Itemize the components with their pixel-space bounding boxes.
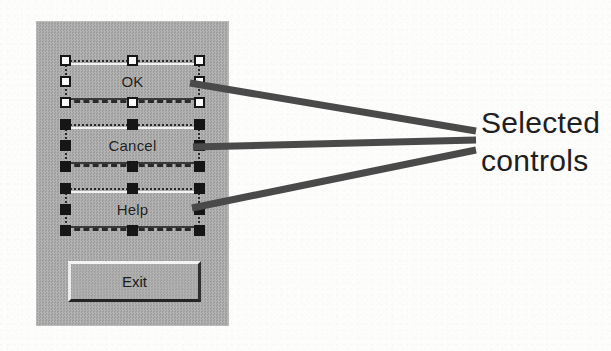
exit-button-label: Exit <box>122 273 147 290</box>
resize-handle-top-left-help[interactable] <box>60 183 71 194</box>
resize-handle-top-right-help[interactable] <box>194 183 205 194</box>
resize-handle-bottom-left-help[interactable] <box>60 225 71 236</box>
leader-line-cancel <box>193 140 476 147</box>
resize-handle-top-left-ok[interactable] <box>60 55 71 66</box>
resize-handle-middle-left-cancel[interactable] <box>60 140 71 151</box>
selected-control-cancel[interactable]: Cancel <box>60 119 205 172</box>
annotation-line-2: controls <box>481 142 600 180</box>
resize-handle-middle-right-cancel[interactable] <box>194 140 205 151</box>
resize-handle-middle-right-ok[interactable] <box>194 76 205 87</box>
dialog-panel: OK Cancel <box>37 22 228 325</box>
leader-line-ok <box>190 83 476 131</box>
exit-button[interactable]: Exit <box>68 261 201 302</box>
resize-handle-top-center-cancel[interactable] <box>127 119 138 130</box>
resize-handle-bottom-center-ok[interactable] <box>127 97 138 108</box>
leader-line-help <box>192 150 476 208</box>
resize-handle-top-center-help[interactable] <box>127 183 138 194</box>
resize-handle-top-left-cancel[interactable] <box>60 119 71 130</box>
annotation-label: Selected controls <box>481 104 600 180</box>
resize-handle-top-right-cancel[interactable] <box>194 119 205 130</box>
resize-handle-middle-left-help[interactable] <box>60 204 71 215</box>
figure-canvas: OK Cancel <box>0 0 611 351</box>
resize-handle-middle-right-help[interactable] <box>194 204 205 215</box>
resize-handle-bottom-right-help[interactable] <box>194 225 205 236</box>
selected-control-help[interactable]: Help <box>60 183 205 236</box>
resize-handle-bottom-right-cancel[interactable] <box>194 161 205 172</box>
resize-handle-top-right-ok[interactable] <box>194 55 205 66</box>
resize-handle-bottom-center-help[interactable] <box>127 225 138 236</box>
selected-control-ok[interactable]: OK <box>60 55 205 108</box>
resize-handle-bottom-right-ok[interactable] <box>194 97 205 108</box>
resize-handle-bottom-center-cancel[interactable] <box>127 161 138 172</box>
resize-handle-bottom-left-ok[interactable] <box>60 97 71 108</box>
resize-handle-middle-left-ok[interactable] <box>60 76 71 87</box>
annotation-line-1: Selected <box>481 104 600 142</box>
resize-handle-top-center-ok[interactable] <box>127 55 138 66</box>
resize-handle-bottom-left-cancel[interactable] <box>60 161 71 172</box>
